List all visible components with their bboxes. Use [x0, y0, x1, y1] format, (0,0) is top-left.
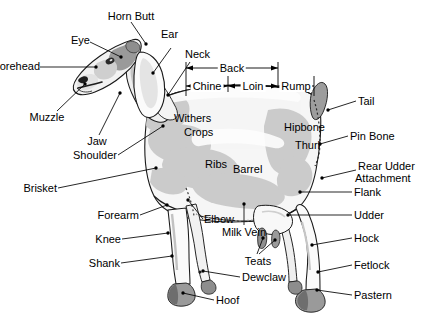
- label-barrel: Barrel: [233, 163, 262, 175]
- label-muzzle: Muzzle: [30, 111, 65, 123]
- label-brisket: Brisket: [23, 182, 57, 194]
- label-withers: Withers: [174, 112, 211, 124]
- dimension-label-chine: Chine: [191, 80, 224, 92]
- label-forehead: Forehead: [0, 60, 40, 72]
- label-ribs: Ribs: [205, 158, 227, 170]
- label-ear: Ear: [161, 28, 178, 40]
- goat-head: [73, 39, 165, 117]
- goat-tail: [310, 82, 327, 119]
- label-flank: Flank: [354, 186, 381, 198]
- label-hock: Hock: [354, 232, 379, 244]
- label-knee: Knee: [95, 233, 121, 245]
- label-pin-bone: Pin Bone: [350, 130, 395, 142]
- label-hoof: Hoof: [216, 294, 239, 306]
- label-neck: Neck: [185, 48, 210, 60]
- label-horn-butt: Horn Butt: [108, 10, 154, 22]
- dimension-label-back: Back: [218, 62, 246, 74]
- label-crops: Crops: [184, 126, 213, 138]
- label-thurl: Thurl: [295, 139, 320, 151]
- label-forearm: Forearm: [97, 209, 139, 221]
- label-udder: Udder: [354, 209, 384, 221]
- label-rear-udder-attachment-line1: Rear Udder: [358, 160, 415, 172]
- label-jaw: Jaw: [87, 135, 107, 147]
- label-fetlock: Fetlock: [354, 259, 389, 271]
- dimension-label-loin: Loin: [241, 80, 266, 92]
- dimension-label-rump: Rump: [279, 80, 312, 92]
- label-shank: Shank: [89, 257, 120, 269]
- label-elbow: Elbow: [204, 213, 234, 225]
- label-milk-vein: Milk Vein: [222, 226, 266, 238]
- label-dewclaw: Dewclaw: [242, 271, 286, 283]
- label-teats: Teats: [245, 255, 271, 267]
- goat-anatomy-diagram: Horn Butt Eye Forehead Muzzle Jaw Should…: [0, 0, 427, 323]
- rear-leg-near: [295, 205, 325, 313]
- label-eye: Eye: [71, 34, 90, 46]
- label-tail: Tail: [358, 95, 375, 107]
- label-shoulder: Shoulder: [73, 149, 117, 161]
- label-hipbone: Hipbone: [284, 121, 325, 133]
- label-pastern: Pastern: [354, 289, 392, 301]
- label-rear-udder-attachment-line2: Attachment: [355, 172, 411, 184]
